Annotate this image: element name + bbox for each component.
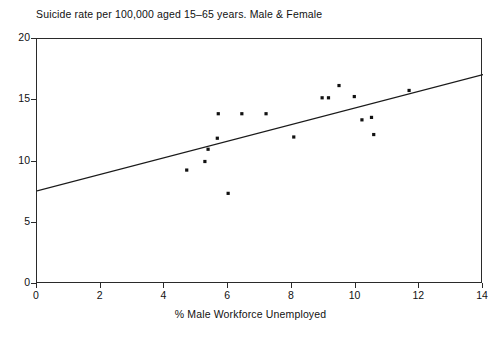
- plot-svg: [37, 39, 483, 284]
- data-point: [217, 112, 220, 115]
- data-point: [227, 192, 230, 195]
- data-point: [370, 116, 373, 119]
- x-tick-mark: [36, 283, 37, 288]
- data-point: [372, 133, 375, 136]
- data-point: [360, 118, 363, 121]
- data-point: [327, 96, 330, 99]
- y-tick-label: 20: [0, 31, 30, 43]
- x-tick-mark: [227, 283, 228, 288]
- data-point: [206, 148, 209, 151]
- trend-line: [37, 75, 483, 191]
- x-tick-mark: [355, 283, 356, 288]
- y-tick-mark: [31, 38, 36, 39]
- data-point: [216, 137, 219, 140]
- y-tick-label: 0: [0, 276, 30, 288]
- data-point: [240, 112, 243, 115]
- trend-line-segment: [37, 75, 483, 191]
- x-tick-mark: [163, 283, 164, 288]
- plot-area: [36, 38, 482, 283]
- data-point: [185, 168, 188, 171]
- data-points: [185, 84, 411, 195]
- x-tick-mark: [418, 283, 419, 288]
- x-tick-label: 14: [467, 289, 497, 301]
- y-tick-label: 15: [0, 92, 30, 104]
- data-point: [407, 89, 410, 92]
- x-tick-mark: [482, 283, 483, 288]
- x-tick-mark: [291, 283, 292, 288]
- x-tick-label: 8: [276, 289, 306, 301]
- data-point: [337, 84, 340, 87]
- data-point: [353, 95, 356, 98]
- chart-title: Suicide rate per 100,000 aged 15–65 year…: [36, 8, 322, 20]
- data-point: [292, 135, 295, 138]
- scatter-chart: Suicide rate per 100,000 aged 15–65 year…: [0, 0, 501, 341]
- data-point: [321, 96, 324, 99]
- y-tick-label: 5: [0, 215, 30, 227]
- x-tick-label: 0: [21, 289, 51, 301]
- x-tick-label: 6: [212, 289, 242, 301]
- data-point: [203, 160, 206, 163]
- x-tick-label: 4: [148, 289, 178, 301]
- x-tick-label: 12: [403, 289, 433, 301]
- y-tick-mark: [31, 99, 36, 100]
- y-tick-label: 10: [0, 154, 30, 166]
- x-tick-mark: [100, 283, 101, 288]
- y-tick-mark: [31, 161, 36, 162]
- data-point: [264, 112, 267, 115]
- y-tick-mark: [31, 222, 36, 223]
- x-axis-title: % Male Workforce Unemployed: [0, 308, 501, 320]
- x-tick-label: 10: [340, 289, 370, 301]
- x-tick-label: 2: [85, 289, 115, 301]
